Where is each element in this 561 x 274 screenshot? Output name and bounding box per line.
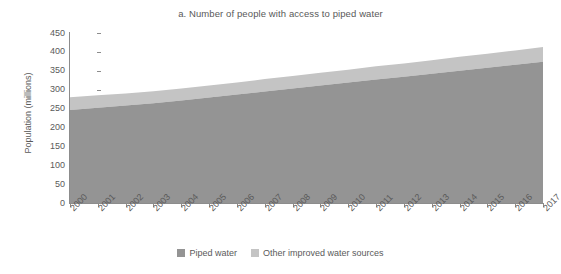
- legend-swatch-icon: [251, 249, 259, 257]
- x-axis-tick-label: 2010: [346, 192, 367, 213]
- chart-legend: Piped waterOther improved water sources: [0, 248, 561, 258]
- x-axis-tick-label: 2004: [179, 192, 200, 213]
- legend-item[interactable]: Piped water: [177, 248, 237, 258]
- legend-swatch-icon: [177, 249, 185, 257]
- x-axis-tick-label: 2012: [402, 192, 423, 213]
- x-axis-tick-label: 2005: [207, 192, 228, 213]
- legend-label: Other improved water sources: [263, 248, 384, 258]
- x-axis-tick-label: 2014: [458, 192, 479, 213]
- x-axis-tick-label: 2000: [68, 192, 89, 213]
- legend-label: Piped water: [189, 248, 237, 258]
- x-axis-tick-label: 2013: [430, 192, 451, 213]
- x-axis-tick-label: 2003: [151, 192, 172, 213]
- x-axis-tick-labels: 2000200120022003200420052006200720082009…: [0, 0, 561, 274]
- x-axis-tick-label: 2008: [291, 192, 312, 213]
- chart-figure: a. Number of people with access to piped…: [0, 0, 561, 274]
- x-axis-tick-label: 2007: [263, 192, 284, 213]
- x-axis-tick-label: 2002: [124, 192, 145, 213]
- x-axis-tick-label: 2001: [96, 192, 117, 213]
- x-axis-tick-label: 2017: [541, 192, 561, 213]
- legend-item[interactable]: Other improved water sources: [251, 248, 384, 258]
- x-axis-tick-label: 2009: [318, 192, 339, 213]
- x-axis-tick-label: 2016: [513, 192, 534, 213]
- x-axis-tick-label: 2015: [485, 192, 506, 213]
- x-axis-tick-label: 2011: [374, 192, 395, 213]
- x-axis-tick-label: 2006: [235, 192, 256, 213]
